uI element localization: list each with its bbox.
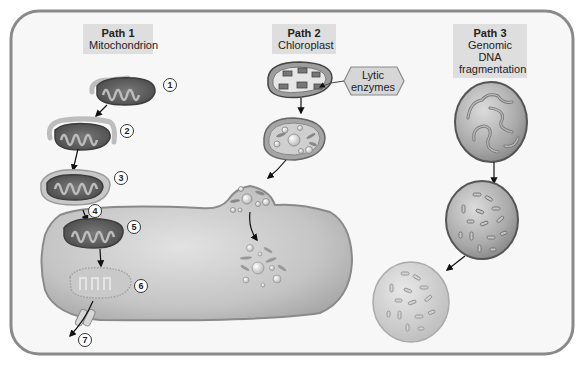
mitochondrion-step-3 xyxy=(41,170,110,205)
path-3-label: Path 3 Genomic DNA fragmentation xyxy=(453,24,527,78)
nucleus-fragmenting xyxy=(446,181,518,259)
path-1-label: Path 1 Mitochondrion xyxy=(83,24,153,54)
path-3-title: Path 3 xyxy=(459,27,521,39)
step-number-2: 2 xyxy=(120,124,134,138)
nucleus-fragmented xyxy=(373,262,449,342)
nucleus-intact xyxy=(455,82,527,162)
mitochondrion-step-1 xyxy=(92,78,155,105)
mitochondrion-step-6-degrading xyxy=(70,268,131,298)
mitochondrion-step-5 xyxy=(64,219,123,248)
chloroplast-degraded xyxy=(264,118,325,160)
diagram-canvas: Path 1 Mitochondrion Path 2 Chloroplast … xyxy=(0,0,583,365)
step-number-7: 7 xyxy=(78,333,92,347)
step-number-6: 6 xyxy=(134,279,148,293)
path-1-subtitle: Mitochondrion xyxy=(89,39,147,51)
step-number-4: 4 xyxy=(88,204,102,218)
step-number-3: 3 xyxy=(114,171,128,185)
path-2-subtitle: Chloroplast xyxy=(278,39,330,51)
path-2-title: Path 2 xyxy=(278,27,330,39)
lytic-enzymes-line-1: Lytic xyxy=(362,69,384,81)
step-number-1: 1 xyxy=(163,78,177,92)
path-2-label: Path 2 Chloroplast xyxy=(272,24,336,54)
path-1-title: Path 1 xyxy=(89,27,147,39)
lytic-enzymes-line-2: enzymes xyxy=(351,81,395,93)
path-3-subtitle-line-2: fragmentation xyxy=(459,63,521,75)
step-number-5: 5 xyxy=(127,220,141,234)
path-3-subtitle-line-1: Genomic DNA xyxy=(459,39,521,63)
lytic-enzymes-label: Lytic enzymes xyxy=(341,66,405,96)
